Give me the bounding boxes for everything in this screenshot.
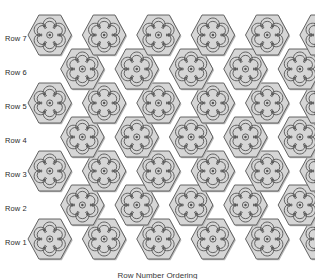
- flower-center-dot: [212, 238, 215, 241]
- flower-center-dot: [266, 102, 269, 105]
- flower-center-dot: [49, 34, 52, 37]
- row-label-4: Row 4: [5, 137, 27, 145]
- hex-tile: [278, 117, 315, 158]
- hex-tile: [278, 185, 315, 226]
- flower-center-dot: [244, 136, 247, 139]
- flower-center-dot: [157, 102, 160, 105]
- row-label-7: Row 7: [5, 35, 27, 43]
- row-label-6: Row 6: [5, 69, 27, 77]
- row-label-2: Row 2: [5, 205, 27, 213]
- row-label-1: Row 1: [5, 239, 27, 247]
- flower-center-dot: [103, 170, 106, 173]
- flower-center-dot: [103, 238, 106, 241]
- flower-center-dot: [49, 102, 52, 105]
- hex-tile: [28, 83, 73, 124]
- flower-center-dot: [212, 102, 215, 105]
- flower-center-dot: [244, 68, 247, 71]
- hex-tile: [28, 15, 73, 56]
- flower-center-dot: [49, 238, 52, 241]
- flower-center-dot: [212, 34, 215, 37]
- flower-center-dot: [157, 170, 160, 173]
- row-label-5: Row 5: [5, 103, 27, 111]
- flower-center-dot: [81, 204, 84, 207]
- hex-tile: [28, 219, 73, 260]
- flower-center-dot: [136, 136, 139, 139]
- hex-tile: [28, 151, 73, 192]
- flower-center-dot: [157, 238, 160, 241]
- flower-center-dot: [190, 136, 193, 139]
- flower-center-dot: [157, 34, 160, 37]
- flower-center-dot: [136, 204, 139, 207]
- flower-center-dot: [190, 204, 193, 207]
- flower-center-dot: [212, 170, 215, 173]
- flower-center-dot: [81, 136, 84, 139]
- flower-center-dot: [103, 102, 106, 105]
- flower-center-dot: [103, 34, 106, 37]
- flower-center-dot: [266, 34, 269, 37]
- flower-center-dot: [299, 204, 302, 207]
- figure-caption: Row Number Ordering: [0, 271, 315, 279]
- hex-tile: [278, 49, 315, 90]
- flower-center-dot: [299, 136, 302, 139]
- flower-center-dot: [299, 68, 302, 71]
- flower-center-dot: [266, 238, 269, 241]
- hexagon-tiling-canvas: [0, 0, 315, 279]
- row-label-3: Row 3: [5, 171, 27, 179]
- flower-center-dot: [49, 170, 52, 173]
- tile-group: [28, 15, 315, 260]
- flower-center-dot: [244, 204, 247, 207]
- flower-center-dot: [190, 68, 193, 71]
- flower-center-dot: [136, 68, 139, 71]
- flower-center-dot: [81, 68, 84, 71]
- flower-center-dot: [266, 170, 269, 173]
- tiling-figure: Row 7 Row 6 Row 5 Row 4 Row 3 Row 2 Row …: [0, 0, 315, 279]
